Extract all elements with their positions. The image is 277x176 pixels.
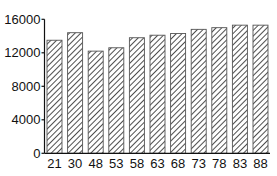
bar-30	[68, 33, 83, 154]
bar-78	[212, 28, 227, 154]
x-tick-label: 63	[150, 156, 164, 171]
x-tick-label: 78	[212, 156, 226, 171]
x-tick-label: 53	[109, 156, 123, 171]
x-axis: 2130485358636873788388	[45, 153, 271, 171]
y-tick-label: 8000	[12, 79, 41, 94]
y-axis: 0400080001200016000	[4, 12, 44, 161]
y-tick-label: 4000	[12, 112, 41, 127]
bar-88	[253, 25, 268, 153]
x-tick-label: 73	[191, 156, 205, 171]
x-tick-label: 83	[233, 156, 247, 171]
bar-83	[232, 25, 247, 153]
x-tick-label: 88	[253, 156, 267, 171]
bar-21	[47, 40, 62, 153]
x-tick-label: 21	[47, 156, 61, 171]
bar-58	[129, 38, 144, 154]
bar-48	[88, 51, 103, 153]
x-tick-label: 58	[130, 156, 144, 171]
bar-53	[109, 48, 124, 154]
bar-73	[191, 29, 206, 153]
x-tick-label: 68	[171, 156, 185, 171]
bar-chart: 0400080001200016000 21304853586368737883…	[0, 0, 277, 176]
x-tick-label: 30	[68, 156, 82, 171]
y-tick-label: 16000	[4, 12, 40, 27]
x-tick-label: 48	[88, 156, 102, 171]
bar-63	[150, 35, 165, 153]
y-tick-label: 12000	[4, 45, 40, 60]
y-tick-label: 0	[33, 146, 40, 161]
bar-68	[171, 34, 186, 154]
bars	[47, 25, 268, 153]
